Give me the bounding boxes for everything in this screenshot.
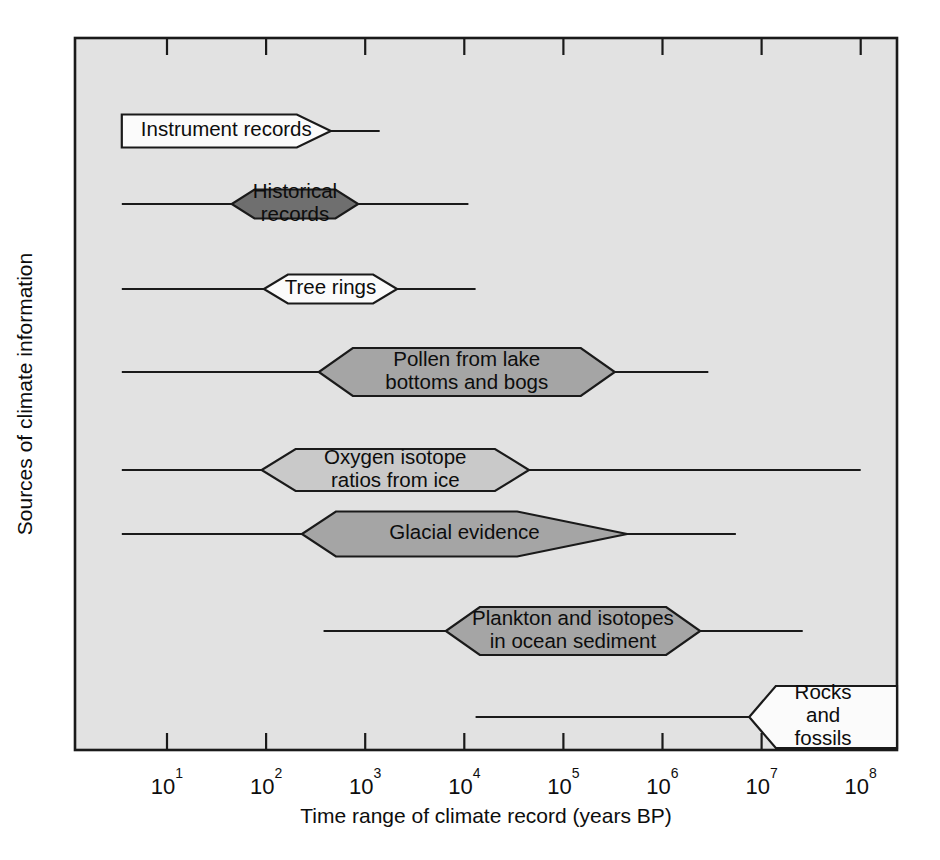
- bar-label: Glacial evidence: [389, 520, 539, 543]
- x-tick-label: 103: [349, 765, 381, 799]
- bar-label: Oxygen isotope: [324, 445, 466, 468]
- chart-svg: Instrument recordsHistoricalrecordsTree …: [0, 0, 940, 860]
- bar-label: bottoms and bogs: [385, 370, 548, 393]
- x-axis-title: Time range of climate record (years BP): [300, 804, 672, 827]
- x-tick-label: 105: [547, 765, 579, 799]
- bar-label: ratios from ice: [331, 468, 460, 491]
- bar-label: Rocks: [795, 680, 852, 703]
- bar-label: Pollen from lake: [393, 347, 540, 370]
- bar-label: Plankton and isotopes: [472, 606, 674, 629]
- x-tick-label: 106: [646, 765, 678, 799]
- bar-label: in ocean sediment: [490, 629, 657, 652]
- bar-label: Tree rings: [285, 275, 377, 298]
- x-tick-label: 108: [845, 765, 877, 799]
- bar-label: records: [261, 202, 329, 225]
- bar-label: Instrument records: [141, 117, 312, 140]
- bar-label: Historical: [253, 179, 337, 202]
- x-axis-tick-labels: 101102103104105106107108: [151, 765, 877, 799]
- x-tick-label: 101: [151, 765, 183, 799]
- climate-record-figure: Instrument recordsHistoricalrecordsTree …: [0, 0, 940, 860]
- x-tick-label: 107: [745, 765, 777, 799]
- bar-label: and: [806, 703, 840, 726]
- x-tick-label: 102: [250, 765, 282, 799]
- x-tick-label: 104: [448, 765, 480, 799]
- y-axis-title: Sources of climate information: [13, 253, 36, 535]
- bar-label: fossils: [795, 726, 852, 749]
